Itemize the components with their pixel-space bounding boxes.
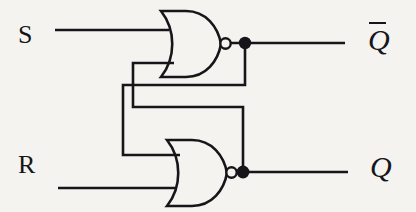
nor-gate-bottom-body (167, 140, 227, 206)
label-qbar-text: Q (368, 23, 390, 56)
circuit-diagram-canvas (0, 0, 416, 212)
junction-dot-q (237, 166, 250, 179)
wire-feedback-qbar-to-bottom-input (123, 43, 245, 155)
label-qbar-output: Q (368, 22, 390, 55)
logic-circuit-figure: S R Q Q (0, 0, 416, 212)
label-set-input: S (18, 22, 32, 48)
overbar-group: Q (368, 22, 390, 55)
label-q-output: Q (370, 152, 392, 182)
overbar-line (369, 22, 386, 24)
nor-gate-top-inversion-bubble (220, 38, 230, 48)
label-reset-input: R (18, 152, 35, 178)
nor-gate-top-body (161, 11, 221, 77)
junction-dot-qbar (239, 37, 251, 49)
nor-gate-bottom-inversion-bubble (226, 167, 236, 177)
